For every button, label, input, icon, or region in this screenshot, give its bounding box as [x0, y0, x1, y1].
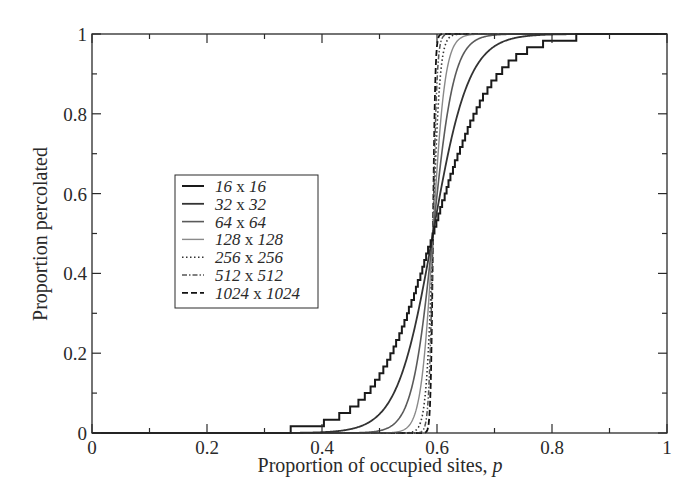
y-tick-labels: 00.20.40.60.81 — [63, 24, 87, 444]
legend-label: 32 x 32 — [214, 195, 267, 214]
y-axis-title: Proportion percolated — [29, 147, 52, 321]
x-tick-label: 1 — [662, 437, 672, 458]
y-tick-label: 0 — [78, 423, 88, 444]
x-tick-label: 0.2 — [195, 437, 219, 458]
legend-label: 512 x 512 — [215, 266, 284, 285]
x-tick-label: 0 — [87, 437, 97, 458]
y-tick-label: 1 — [78, 24, 88, 45]
legend-label: 1024 x 1024 — [215, 284, 301, 303]
y-tick-label: 0.8 — [63, 104, 87, 125]
y-tick-label: 0.4 — [63, 263, 87, 284]
y-tick-label: 0.2 — [63, 343, 87, 364]
x-tick-label: 0.8 — [540, 437, 564, 458]
legend: 16 x 1632 x 3264 x 64128 x 128256 x 2565… — [175, 175, 318, 308]
percolation-chart: 00.20.40.60.81 00.20.40.60.81 Proportion… — [0, 0, 675, 501]
x-axis-title: Proportion of occupied sites, p — [258, 454, 503, 477]
legend-label: 128 x 128 — [215, 230, 284, 249]
legend-label: 64 x 64 — [215, 213, 267, 232]
y-tick-label: 0.6 — [63, 184, 87, 205]
legend-label: 256 x 256 — [215, 248, 284, 267]
legend-label: 16 x 16 — [215, 177, 267, 196]
